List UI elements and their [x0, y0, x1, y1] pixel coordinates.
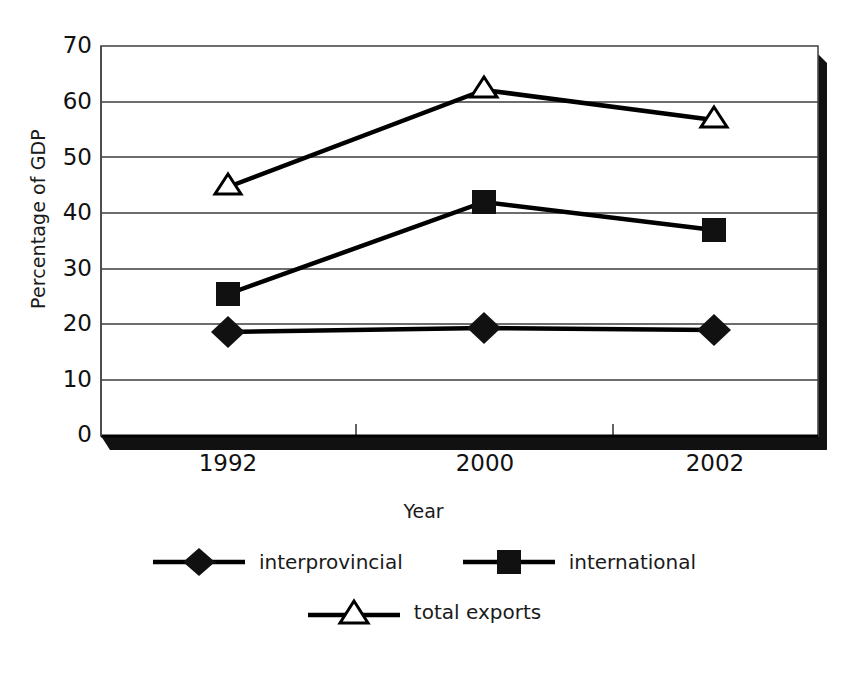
- legend-marker-filled-square-icon: [461, 548, 557, 576]
- plot-bottom-shadow: [101, 436, 827, 450]
- legend-marker-filled-diamond-icon: [151, 548, 247, 576]
- legend-item-international: international: [461, 548, 696, 576]
- plot-right-shadow: [818, 54, 827, 450]
- x-tick-label-2002: 2002: [635, 452, 795, 475]
- chart-container: Percentage of GDP 70 60 50 40 30 20 10 0: [0, 0, 847, 677]
- legend-label-interprovincial: interprovincial: [259, 550, 403, 574]
- x-tick-label-1992: 1992: [148, 452, 308, 475]
- data-point-international-2002: [702, 218, 726, 242]
- legend-item-total-exports: total exports: [306, 598, 541, 626]
- chart-legend: interprovincial international total expo…: [0, 548, 847, 626]
- legend-label-total-exports: total exports: [414, 600, 541, 624]
- x-tick-label-2000: 2000: [405, 452, 565, 475]
- data-point-international-2000: [472, 190, 496, 214]
- x-axis-title: Year: [0, 500, 847, 522]
- data-point-international-1992: [216, 282, 240, 306]
- legend-item-interprovincial: interprovincial: [151, 548, 403, 576]
- legend-label-international: international: [569, 550, 696, 574]
- legend-marker-open-triangle-icon: [306, 598, 402, 626]
